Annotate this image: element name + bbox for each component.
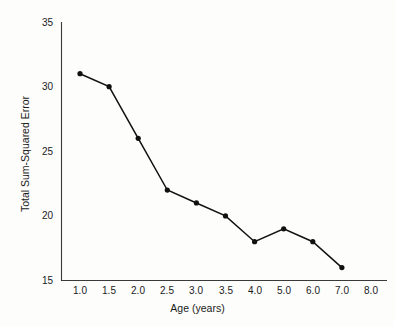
y-tick-label: 35	[42, 17, 54, 28]
y-tick-label: 25	[42, 146, 54, 157]
x-tick-label: 8.0	[364, 285, 378, 296]
y-axis-tick-labels: 35 30 25 20 15	[42, 17, 54, 286]
x-tick-label: 2.5	[160, 285, 174, 296]
y-axis-title: Total Sum-Squared Error	[19, 74, 31, 234]
x-tick-label: 1.0	[73, 285, 87, 296]
data-point	[281, 226, 286, 231]
chart-container: 35 30 25 20 15 1.0 1.5 2.0 2.5 3.0 3.5 4…	[0, 0, 395, 327]
x-tick-label: 6.0	[306, 285, 320, 296]
data-point	[165, 187, 170, 192]
data-point	[339, 265, 344, 270]
x-tick-label: 3.5	[219, 285, 233, 296]
x-tick-label: 4.0	[248, 285, 262, 296]
axis-lines	[62, 22, 388, 281]
x-axis-title: Age (years)	[0, 302, 395, 314]
y-tick-label: 20	[42, 210, 54, 221]
x-tick-label: 5.0	[277, 285, 291, 296]
x-axis-tick-labels: 1.0 1.5 2.0 2.5 3.0 3.5 4.0 5.0 6.0 7.0 …	[73, 285, 378, 296]
data-point	[194, 200, 199, 205]
line-chart-plot: 35 30 25 20 15 1.0 1.5 2.0 2.5 3.0 3.5 4…	[0, 0, 395, 327]
data-point	[223, 213, 228, 218]
x-tick-label: 3.0	[189, 285, 203, 296]
x-tick-label: 2.0	[131, 285, 145, 296]
data-point	[77, 71, 82, 76]
x-tick-label: 7.0	[335, 285, 349, 296]
data-series-line	[80, 74, 342, 268]
y-tick-label: 15	[42, 275, 54, 286]
data-point	[310, 239, 315, 244]
x-tick-label: 1.5	[102, 285, 116, 296]
y-tick-label: 30	[42, 81, 54, 92]
data-point	[107, 84, 112, 89]
data-point	[136, 136, 141, 141]
data-point	[252, 239, 257, 244]
